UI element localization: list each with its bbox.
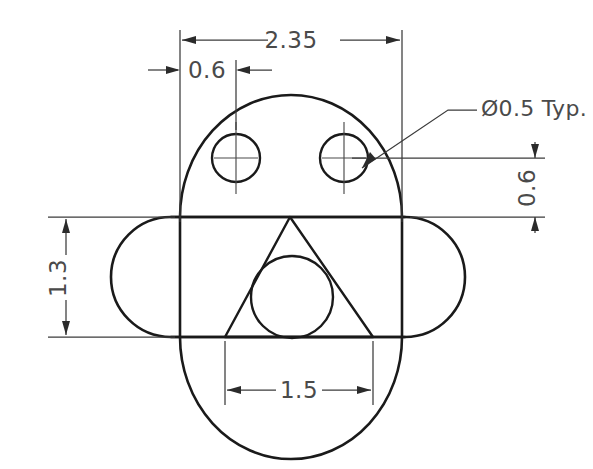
triangle-outline	[225, 217, 373, 337]
dimension-overall-width: 2.35	[182, 27, 400, 53]
hole-left	[212, 122, 260, 194]
arrow-13-top	[62, 219, 70, 233]
arrow-06v-top	[531, 144, 539, 158]
inscribed-circle	[251, 256, 333, 338]
arrow-15-left	[227, 386, 241, 394]
arrow-06-right	[236, 66, 250, 74]
triangle	[225, 217, 373, 337]
arrow-06v-bottom	[531, 217, 539, 231]
arrow-15-right	[357, 386, 371, 394]
note-label-hole-diameter: Ø0.5 Typ.	[481, 96, 587, 121]
dimension-hole-edge-offset: 0.6	[148, 57, 272, 83]
dimension-triangle-base-width: 1.5	[227, 377, 371, 403]
slot-stadium	[111, 217, 465, 337]
dimension-slot-height: 1.3	[45, 219, 71, 335]
leader-line-hole-diameter	[362, 110, 477, 168]
arrow-235-right	[386, 36, 400, 44]
technical-drawing-canvas: 2.35 0.6 0.6 1.3	[0, 0, 593, 469]
dim-label-overall-width: 2.35	[264, 27, 317, 53]
arrow-235-left	[182, 36, 196, 44]
arrow-13-bottom	[62, 321, 70, 335]
arrow-leader-hole-diameter	[362, 152, 376, 168]
dim-label-slot-height: 1.3	[45, 259, 71, 297]
dim-label-hole-edge-offset: 0.6	[188, 57, 226, 83]
note-hole-diameter: Ø0.5 Typ.	[362, 96, 587, 168]
cad-drawing-svg: 2.35 0.6 0.6 1.3	[0, 0, 593, 469]
dimension-hole-vertical-offset: 0.6	[514, 142, 540, 233]
dim-label-hole-vertical-offset: 0.6	[514, 169, 540, 207]
horizontal-slot	[111, 217, 465, 337]
slot-edges	[171, 217, 405, 337]
arrow-06-left	[166, 66, 180, 74]
dim-label-triangle-base-width: 1.5	[280, 377, 318, 403]
